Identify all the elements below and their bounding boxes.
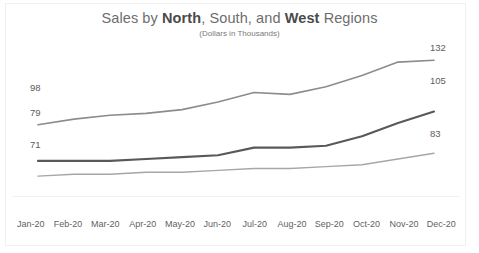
x-axis-tick-10: Nov-20: [385, 219, 422, 233]
x-axis-labels: Jan-20 Feb-20 Mar-20 Apr-20 May-20 Jun-2…: [12, 219, 460, 233]
x-axis-tick-0: Jan-20: [12, 219, 49, 233]
x-axis-tick-3: Apr-20: [124, 219, 161, 233]
data-label-north-end: 132: [430, 42, 446, 53]
series-line-south: [38, 112, 434, 161]
plot-svg: [12, 45, 460, 197]
x-axis-tick-11: Dec-20: [423, 219, 460, 233]
x-axis-tick-7: Aug-20: [273, 219, 310, 233]
data-label-south-end: 105: [430, 75, 446, 86]
x-axis-tick-5: Jun-20: [199, 219, 236, 233]
series-line-west: [38, 153, 434, 176]
data-label-west-start: 71: [30, 139, 41, 150]
data-label-north-start: 98: [30, 82, 41, 93]
x-axis-tick-2: Mar-20: [87, 219, 124, 233]
x-axis-line: [12, 196, 460, 197]
data-label-west-end: 83: [430, 128, 441, 139]
x-axis-tick-9: Oct-20: [348, 219, 385, 233]
x-axis-tick-1: Feb-20: [49, 219, 86, 233]
x-axis-tick-4: May-20: [161, 219, 198, 233]
x-axis-tick-6: Jul-20: [236, 219, 273, 233]
data-label-south-start: 79: [30, 107, 41, 118]
plot-area: [12, 45, 460, 197]
series-line-north: [38, 60, 434, 125]
chart-screenshot: Sales by North, South, and West Regions …: [0, 0, 479, 253]
x-axis-tick-8: Sep-20: [311, 219, 348, 233]
